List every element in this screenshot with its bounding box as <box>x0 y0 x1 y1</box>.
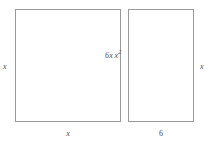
bottom-left-width-label: x <box>15 130 121 138</box>
area-model-figure: x2 6x x x x 6 <box>0 0 218 148</box>
left-height-label: x <box>3 63 7 71</box>
large-square-shape <box>15 9 121 122</box>
bottom-right-width-label: 6 <box>128 130 194 138</box>
right-height-label: x <box>200 63 204 71</box>
rectangle-area-label: 6x <box>0 52 218 60</box>
right-rectangle-shape <box>128 9 194 122</box>
